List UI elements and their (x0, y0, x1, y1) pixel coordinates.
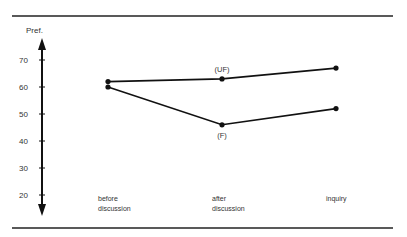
data-point (105, 84, 110, 89)
y-axis-label: Pref. (26, 26, 43, 35)
y-tick-label: 40 (19, 137, 28, 146)
y-tick-label: 30 (19, 164, 28, 173)
series-group: (UF)(F) (105, 65, 338, 140)
x-tick-label: discussion (98, 205, 131, 212)
data-point (219, 122, 224, 127)
series-line (108, 87, 336, 125)
series-label: (F) (217, 131, 227, 140)
y-tick-label: 70 (19, 56, 28, 65)
y-tick-label: 20 (19, 191, 28, 200)
series-label: (UF) (215, 65, 230, 74)
data-point (105, 79, 110, 84)
x-tick-label: inquiry (326, 195, 347, 203)
arrow-up-icon (38, 38, 46, 50)
arrow-down-icon (38, 204, 46, 216)
x-tick-label: discussion (212, 205, 245, 212)
line-chart: Pref. 203040506070 (UF)(F) beforediscuss… (0, 0, 407, 237)
data-point (219, 76, 224, 81)
y-tick-label: 50 (19, 110, 28, 119)
y-tick-label: 60 (19, 83, 28, 92)
x-tick-label: before (98, 195, 118, 202)
x-axis-labels: beforediscussionafterdiscussioninquiry (98, 195, 347, 212)
x-tick-label: after (212, 195, 227, 202)
data-point (333, 66, 338, 71)
data-point (333, 106, 338, 111)
y-axis: 203040506070 (19, 38, 46, 216)
